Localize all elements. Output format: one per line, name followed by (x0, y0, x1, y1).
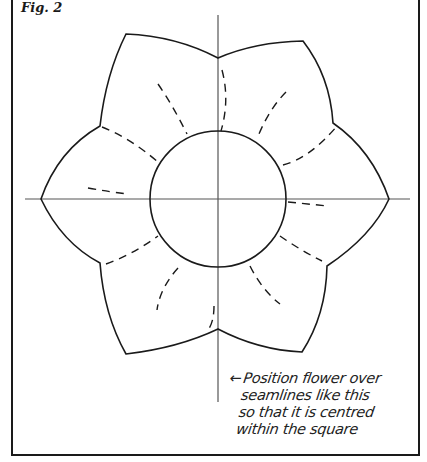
left-arrow-icon: ← (228, 370, 242, 387)
note-line-3: so that it is centred (224, 404, 416, 421)
flower-outline (41, 34, 389, 354)
note-line-4: within the square (221, 421, 413, 438)
note-line-2: seamlines like this (226, 387, 418, 404)
positioning-note: ←Position flower over seamlines like thi… (221, 370, 421, 438)
note-line-1: ←Position flower over (228, 370, 420, 387)
stitch-lines (88, 70, 337, 330)
